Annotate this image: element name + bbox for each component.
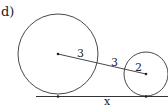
small-radius-label: 2 xyxy=(135,61,142,74)
center-connecting-segment xyxy=(58,54,146,74)
large-radius-label: 3 xyxy=(77,47,84,60)
part-label: d) xyxy=(1,4,14,19)
small-circle-tangent-point xyxy=(145,95,148,98)
tangent-length-label: x xyxy=(104,95,111,106)
gap-segment-label: 3 xyxy=(111,56,118,69)
small-circle-center-point xyxy=(145,73,148,76)
tangent-circles-diagram: d) 3 3 2 x xyxy=(0,0,168,106)
large-circle-center-point xyxy=(57,53,60,56)
large-circle-tangent-point xyxy=(57,95,60,98)
